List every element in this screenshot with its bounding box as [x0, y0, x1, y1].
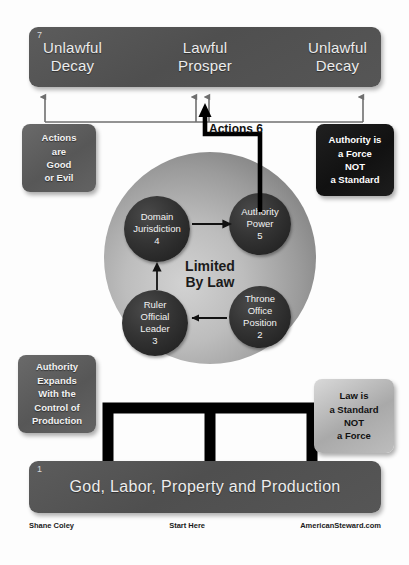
banner-number-1: 1 [37, 465, 42, 474]
node-title: AuthorityPower [241, 206, 279, 229]
node-title: DomainJurisdiction [133, 211, 181, 234]
callout-authority-expands: AuthorityExpandsWith theControl ofProduc… [18, 355, 96, 433]
outcome-left: UnlawfulDecay [43, 39, 102, 74]
outcome-middle: LawfulProsper [178, 39, 232, 74]
node-number: 4 [154, 235, 159, 247]
node-domain-jurisdiction[interactable]: DomainJurisdiction 4 [124, 196, 190, 262]
limited-by-law-label: LimitedBy Law [158, 258, 262, 290]
footer: Shane Coley Start Here AmericanSteward.c… [29, 521, 381, 530]
foundation-text: God, Labor, Property and Production [69, 478, 340, 496]
callout-authority-is-a-force: Authority isa ForceNOTa Standard [316, 124, 394, 196]
outcome-right: UnlawfulDecay [308, 39, 367, 74]
node-throne-office-position[interactable]: ThroneOfficePosition 2 [229, 286, 291, 348]
footer-start-here: Start Here [169, 521, 205, 530]
outcome-banner: 7 UnlawfulDecay LawfulProsper UnlawfulDe… [29, 27, 381, 87]
callout-actions-good-or-evil: ActionsareGoodor Evil [22, 124, 96, 192]
node-ruler-official-leader[interactable]: RulerOfficialLeader 3 [122, 290, 188, 356]
node-number: 3 [152, 335, 157, 347]
actions-label: Actions 6 [209, 122, 263, 136]
diagram-canvas: 7 UnlawfulDecay LawfulProsper UnlawfulDe… [0, 0, 409, 565]
node-number: 2 [257, 329, 262, 341]
node-title: ThroneOfficePosition [243, 293, 277, 328]
footer-author: Shane Coley [29, 521, 74, 530]
footer-site[interactable]: AmericanSteward.com [300, 521, 381, 530]
node-title: RulerOfficialLeader [140, 299, 170, 334]
foundation-banner: 1 God, Labor, Property and Production [29, 461, 381, 513]
banner-number-7: 7 [37, 31, 42, 40]
node-authority-power[interactable]: AuthorityPower 5 [229, 193, 291, 255]
callout-law-is-a-standard: Law isa StandardNOTa Force [314, 379, 394, 453]
node-number: 5 [257, 230, 262, 242]
